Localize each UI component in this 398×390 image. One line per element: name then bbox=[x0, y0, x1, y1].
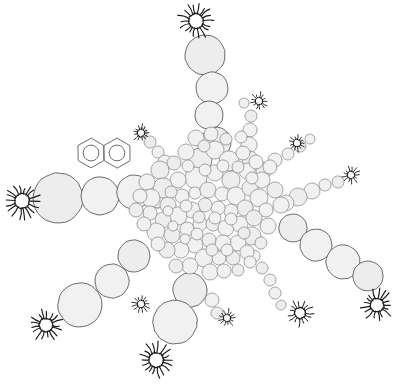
particle-circle bbox=[267, 182, 283, 198]
particle-circle bbox=[236, 146, 250, 160]
particle-circle bbox=[153, 300, 198, 344]
particle-circle bbox=[180, 234, 190, 244]
particle-circle bbox=[133, 189, 147, 203]
particle-circle bbox=[255, 237, 267, 249]
particle-circle bbox=[264, 274, 276, 286]
particle-circle bbox=[199, 164, 211, 176]
particle-circle bbox=[200, 182, 216, 198]
particle-circle bbox=[232, 264, 244, 276]
particle-circle bbox=[129, 203, 143, 217]
particle-circle bbox=[259, 203, 273, 217]
particle-circle bbox=[217, 160, 229, 172]
particle-circle bbox=[169, 259, 183, 273]
particle-circle bbox=[165, 186, 177, 198]
particle-circle bbox=[222, 171, 240, 189]
particle-circle bbox=[244, 256, 256, 268]
particle-circle bbox=[209, 212, 221, 224]
particle-circle bbox=[139, 174, 155, 190]
particle-circle bbox=[221, 244, 233, 256]
particle-circle bbox=[238, 227, 250, 239]
particle-circle bbox=[198, 140, 210, 152]
particle-circle bbox=[168, 221, 178, 231]
particle-circle bbox=[204, 127, 218, 141]
particle-circle bbox=[151, 161, 169, 179]
particle-circle bbox=[246, 172, 258, 184]
particle-circle bbox=[167, 156, 181, 170]
particle-circle bbox=[180, 200, 192, 212]
burst-spike bbox=[228, 321, 229, 324]
particle-circle bbox=[33, 173, 83, 223]
particle-circle bbox=[239, 98, 249, 108]
particle-circle bbox=[178, 144, 194, 160]
particle-circle bbox=[173, 242, 189, 258]
particle-circle bbox=[353, 261, 383, 291]
burst-spike bbox=[6, 200, 15, 201]
particle-circle bbox=[182, 258, 198, 274]
particle-circle bbox=[332, 176, 344, 188]
particle-circle bbox=[58, 283, 102, 327]
particle-circle bbox=[276, 300, 286, 310]
particle-circle bbox=[196, 72, 228, 104]
particle-circle bbox=[95, 264, 129, 298]
particle-circle bbox=[220, 133, 232, 145]
burst-spike bbox=[135, 134, 138, 135]
particle-circle bbox=[245, 110, 257, 122]
particle-circle bbox=[256, 262, 268, 274]
particle-circle bbox=[282, 148, 294, 160]
particle-aggregate-diagram bbox=[0, 0, 398, 390]
particle-circle bbox=[206, 244, 218, 256]
particle-circle bbox=[81, 177, 119, 215]
particle-circle bbox=[189, 187, 201, 199]
particle-circle bbox=[195, 101, 223, 129]
burst-core bbox=[224, 314, 231, 321]
particle-circle bbox=[163, 206, 173, 216]
particle-circle bbox=[191, 228, 203, 240]
particle-circle bbox=[144, 136, 156, 148]
particle-circle bbox=[137, 217, 151, 231]
particle-circle bbox=[182, 160, 194, 172]
particle-circle bbox=[215, 187, 229, 201]
particle-circle bbox=[263, 160, 277, 174]
particle-circle bbox=[273, 197, 289, 213]
particle-circle bbox=[305, 134, 315, 144]
particle-circle bbox=[269, 287, 281, 299]
particle-circle bbox=[151, 237, 165, 251]
particle-circle bbox=[193, 211, 205, 223]
particle-circle bbox=[202, 264, 218, 280]
particle-circle bbox=[249, 155, 263, 169]
particle-circle bbox=[118, 240, 150, 272]
particle-circle bbox=[235, 131, 247, 143]
particle-circle bbox=[260, 218, 276, 234]
figure-canvas bbox=[0, 0, 398, 390]
particle-circle bbox=[232, 161, 244, 173]
particle-circle bbox=[217, 264, 231, 278]
particle-circle bbox=[225, 213, 237, 225]
particle-circle bbox=[319, 179, 331, 191]
particle-circle bbox=[205, 293, 219, 307]
particle-circle bbox=[185, 35, 225, 75]
